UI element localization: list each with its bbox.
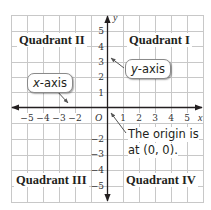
x-axis-callout: x-axis [27,73,73,93]
y-axis-label: y [112,12,118,23]
quadrant-iv-label: Quadrant IV [124,173,198,187]
origin-label: O [95,112,102,123]
svg-text:5: 5 [98,26,104,36]
coordinate-plane-diagram: y x O −5 −4 −3 −2 1 2 3 4 5 5 4 3 2 1 −2… [0,0,211,210]
x-tick-labels: −5 −4 −3 −2 1 2 3 4 5 [15,113,191,123]
svg-text:−5: −5 [20,113,34,123]
svg-text:2: 2 [98,72,104,82]
svg-text:−2: −2 [91,134,104,144]
svg-text:−3: −3 [52,113,66,123]
svg-text:3: 3 [98,57,104,67]
quadrant-i-label: Quadrant I [127,33,192,47]
svg-text:−2: −2 [68,113,81,123]
svg-text:2: 2 [136,113,142,123]
svg-text:1: 1 [98,88,104,98]
y-axis-callout: y-axis [125,59,171,79]
y-axis-callout-text: -axis [138,62,165,76]
y-axis-callout-variable: y [131,62,138,76]
origin-note-line1: The origin is [128,127,199,142]
y-tick-labels: 5 4 3 2 1 −2 −3 −4 −5 [91,26,105,191]
svg-text:−5: −5 [91,181,105,191]
svg-text:4: 4 [98,42,104,52]
x-axis-callout-variable: x [33,76,40,90]
x-axis-callout-text: -axis [40,76,67,90]
svg-text:1: 1 [120,113,126,123]
x-axis-label: x [197,112,203,123]
svg-text:4: 4 [168,113,174,123]
quadrant-ii-label: Quadrant II [17,33,87,47]
origin-note-line2: at (0, 0). [128,143,178,158]
svg-text:−4: −4 [36,113,50,123]
quadrant-iii-label: Quadrant III [14,173,89,187]
svg-text:3: 3 [152,113,158,123]
svg-text:−3: −3 [91,149,105,159]
svg-text:−4: −4 [91,165,105,175]
svg-text:5: 5 [184,113,190,123]
